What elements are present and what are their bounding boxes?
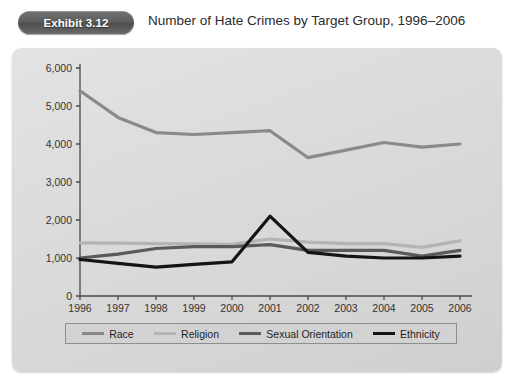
- x-axis-tick-label: 2005: [410, 302, 434, 314]
- y-axis-tick-label: 2,000: [46, 214, 72, 226]
- y-axis-tick-label: 6,000: [46, 62, 72, 74]
- legend-label-sexual-orientation: Sexual Orientation: [266, 328, 352, 340]
- legend-item-sexual-orientation[interactable]: Sexual Orientation: [239, 328, 352, 340]
- y-axis-tick-label: 1,000: [46, 252, 72, 264]
- y-axis-tick-label: 3,000: [46, 176, 72, 188]
- legend-swatch-ethnicity: [373, 332, 395, 335]
- y-axis-tick-label: 5,000: [46, 100, 72, 112]
- x-axis-tick-label: 1997: [106, 302, 130, 314]
- chart-legend: Race Religion Sexual Orientation Ethnici…: [65, 323, 457, 344]
- legend-label-religion: Religion: [181, 328, 219, 340]
- y-axis-tick-label: 0: [66, 290, 72, 302]
- legend-item-ethnicity[interactable]: Ethnicity: [373, 328, 440, 340]
- x-axis-tick-label: 2004: [372, 302, 396, 314]
- series-line-ethnicity: [80, 216, 460, 267]
- x-axis-tick-label: 1999: [182, 302, 206, 314]
- legend-item-race[interactable]: Race: [82, 328, 134, 340]
- legend-label-race: Race: [109, 328, 134, 340]
- x-axis-tick-label: 2006: [448, 302, 472, 314]
- exhibit-badge-label: Exhibit 3.12: [43, 17, 108, 29]
- y-axis-tick-label: 4,000: [46, 138, 72, 150]
- x-axis-tick-label: 1996: [68, 302, 92, 314]
- x-axis-tick-label: 2003: [334, 302, 358, 314]
- legend-swatch-sexual-orientation: [239, 332, 261, 335]
- page-title: Number of Hate Crimes by Target Group, 1…: [148, 13, 465, 28]
- exhibit-header: Exhibit 3.12 Number of Hate Crimes by Ta…: [0, 0, 518, 46]
- x-axis-tick-label: 2002: [296, 302, 320, 314]
- x-axis-tick-label: 1998: [144, 302, 168, 314]
- x-axis-tick-label: 2000: [220, 302, 244, 314]
- series-line-race: [80, 91, 460, 158]
- legend-swatch-race: [82, 332, 104, 335]
- legend-label-ethnicity: Ethnicity: [400, 328, 440, 340]
- x-axis-tick-label: 2001: [258, 302, 282, 314]
- exhibit-badge: Exhibit 3.12: [18, 11, 134, 34]
- legend-swatch-religion: [154, 332, 176, 335]
- chart-panel: 01,0002,0003,0004,0005,0006,000199619971…: [12, 48, 502, 372]
- legend-item-religion[interactable]: Religion: [154, 328, 219, 340]
